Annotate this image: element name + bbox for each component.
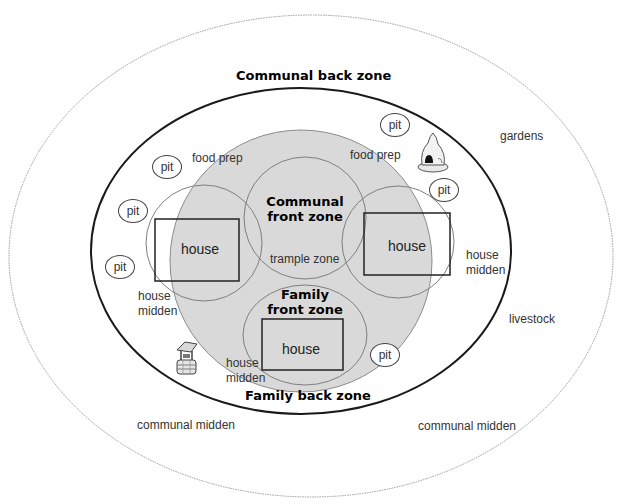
bread-oven-icon	[418, 133, 448, 172]
food-prep-right-label: food prep	[350, 148, 401, 163]
pit-left-upper: pit	[118, 199, 148, 223]
communal-front-zone-label-line2: front zone	[260, 209, 350, 224]
house-midden-bottom-label-line1: house	[226, 356, 259, 371]
livestock-label: livestock	[509, 312, 555, 327]
house-midden-bottom-label-line2: midden	[226, 371, 265, 386]
family-back-zone-label: Family back zone	[242, 388, 374, 403]
pit-left-lower: pit	[105, 255, 135, 279]
pit-right: pit	[429, 178, 459, 202]
food-prep-left-label: food prep	[192, 151, 243, 166]
pit-bottom-right: pit	[370, 343, 400, 367]
trample-zone-label: trample zone	[270, 252, 339, 267]
pit-top-right: pit	[380, 113, 410, 137]
house-bottom-label: house	[276, 341, 326, 357]
family-front-zone-label-line2: front zone	[260, 302, 350, 317]
communal-back-zone-label: Communal back zone	[236, 68, 386, 83]
house-midden-right-label-line1: house	[466, 248, 499, 263]
gardens-label: gardens	[500, 129, 543, 144]
house-midden-left-label-line1: house	[138, 289, 171, 304]
house-right-label: house	[382, 238, 432, 254]
well-icon	[177, 342, 197, 374]
house-left-label: house	[175, 241, 225, 257]
communal-midden-left-label: communal midden	[137, 418, 235, 433]
house-midden-left-label-line2: midden	[138, 304, 177, 319]
communal-front-zone-label-line1: Communal	[260, 194, 350, 209]
house-midden-right-label-line2: midden	[466, 263, 505, 278]
pit-top-left: pit	[152, 155, 182, 179]
communal-midden-right-label: communal midden	[418, 419, 516, 434]
family-front-zone-label-line1: Family	[260, 287, 350, 302]
